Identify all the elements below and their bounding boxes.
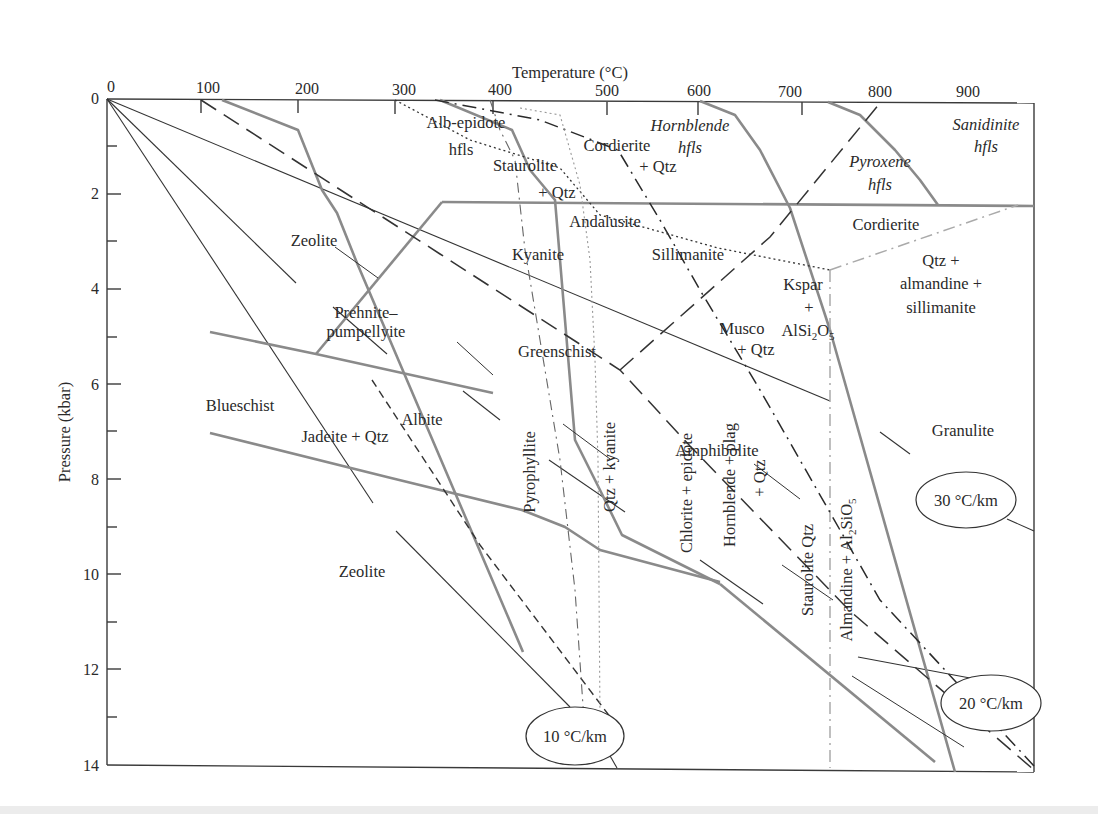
- geotherm-30-label: 30 °C/km: [916, 472, 1016, 528]
- y-axis-title: Pressure (kbar): [55, 382, 74, 482]
- label-zeolite-bottom: Zeolite: [339, 562, 386, 581]
- label-blueschist: Blueschist: [206, 396, 275, 415]
- y-tick-0: 0: [91, 90, 99, 107]
- page-bottom-edge: [0, 806, 1098, 814]
- label-pyrophyllite: Pyrophyllite: [520, 431, 539, 513]
- label-almandine-plus: almandine +: [900, 274, 982, 293]
- geotherm-10-label: 10 °C/km: [526, 707, 624, 765]
- y-tick-2: 2: [91, 185, 99, 202]
- label-staurolite-qtz: Staurolite Qtz: [798, 524, 817, 616]
- svg-text:30 °C/km: 30 °C/km: [934, 491, 998, 510]
- label-cordierite-right: Cordierite: [853, 215, 920, 234]
- label-pumpellyite: pumpellyite: [327, 322, 406, 341]
- label-prehnite: Prehnite–: [334, 303, 398, 322]
- label-plus-qtz-2: + Qtz: [639, 157, 676, 176]
- svg-text:20 °C/km: 20 °C/km: [959, 694, 1023, 713]
- region-labels: Alb-epidote hfls Staurolite + Qtz Cordie…: [206, 113, 1020, 642]
- y-tick-8: 8: [91, 471, 99, 488]
- y-tick-labels: 0 2 4 6 8 10 12 14: [83, 90, 99, 774]
- y-tick-4: 4: [91, 280, 99, 297]
- label-alb-epidote: Alb-epidote: [427, 113, 506, 132]
- label-qtz-kyanite: Qtz + kyanite: [600, 422, 619, 512]
- x-tick-700: 700: [778, 83, 802, 100]
- label-plus-qtz-1: + Qtz: [538, 183, 575, 202]
- label-jadeite-qtz: Jadeite + Qtz: [301, 427, 388, 446]
- label-qtz-plus: Qtz +: [922, 251, 959, 270]
- x-tick-900: 900: [956, 83, 980, 100]
- label-staurolite-top: Staurolite: [493, 156, 557, 175]
- y-tick-10: 10: [83, 566, 99, 583]
- geotherm-labels: 30 °C/km 20 °C/km 10 °C/km: [526, 472, 1041, 765]
- label-almandine-al2sio5: Almandine + Al2SiO5: [837, 498, 858, 642]
- label-sillimanite: Sillimanite: [652, 245, 724, 264]
- label-granulite: Granulite: [932, 421, 994, 440]
- x-tick-500: 500: [595, 82, 619, 99]
- label-hornblende-hfls: Hornblende: [650, 116, 730, 135]
- x-tick-200: 200: [295, 80, 319, 97]
- albite-jadeite-dashed: [372, 380, 614, 722]
- label-musco: Musco: [720, 319, 765, 338]
- facies-diagram: Temperature (°C) Pressure (kbar) 0 100 2…: [0, 0, 1098, 814]
- x-tick-300: 300: [392, 81, 416, 98]
- y-tick-14: 14: [83, 757, 99, 774]
- label-kyanite: Kyanite: [512, 245, 564, 264]
- label-hfls-3: hfls: [868, 175, 892, 194]
- label-hfls-4: hfls: [974, 137, 998, 156]
- x-tick-600: 600: [687, 82, 711, 99]
- label-hfls-2: hfls: [678, 138, 702, 157]
- x-tick-0: 0: [107, 78, 115, 95]
- label-sanidinite-hfls: Sanidinite: [953, 115, 1020, 134]
- x-tick-400: 400: [488, 81, 512, 98]
- label-sillimanite-2: sillimanite: [906, 298, 976, 317]
- svg-text:10 °C/km: 10 °C/km: [543, 727, 607, 746]
- label-plus: +: [804, 298, 813, 317]
- label-pyroxene-hfls: Pyroxene: [848, 152, 911, 171]
- label-andalusite: Andalusite: [569, 212, 641, 231]
- label-albite: Albite: [401, 410, 442, 429]
- geotherm-20-label: 20 °C/km: [941, 675, 1041, 731]
- label-cordierite-top: Cordierite: [584, 136, 651, 155]
- y-tick-12: 12: [83, 661, 99, 678]
- leader-lines: [335, 247, 964, 747]
- label-amphibolite: Amphibolite: [675, 441, 758, 460]
- label-greenschist: Greenschist: [518, 342, 596, 361]
- label-hfls-1: hfls: [449, 140, 474, 159]
- label-zeolite-top: Zeolite: [291, 231, 338, 250]
- y-tick-6: 6: [91, 376, 99, 393]
- x-tick-100: 100: [196, 79, 220, 96]
- label-kspar: Kspar: [783, 275, 823, 294]
- x-tick-800: 800: [868, 83, 892, 100]
- label-alsi2o5: AlSi2O5: [781, 321, 835, 342]
- x-axis-title: Temperature (°C): [512, 63, 628, 82]
- label-plus-qtz-4: + Qtz: [750, 459, 769, 496]
- label-plus-qtz-3: + Qtz: [737, 340, 774, 359]
